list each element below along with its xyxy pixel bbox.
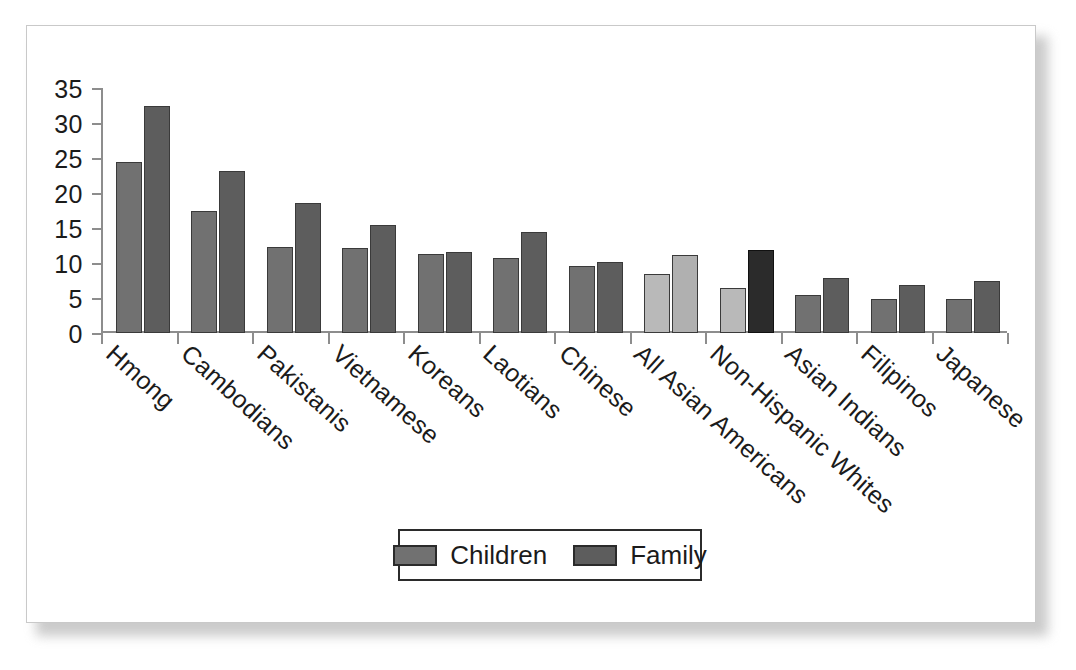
legend-swatch-family-icon <box>573 545 617 566</box>
y-axis-tick-label: 5 <box>69 285 83 314</box>
legend-label-children: Children <box>450 540 547 571</box>
y-axis-tick-label: 0 <box>69 320 83 349</box>
x-axis-label: Japanese <box>931 339 1032 434</box>
bar-family <box>899 285 925 333</box>
bar-family <box>370 225 396 333</box>
bar-family <box>748 250 774 333</box>
y-axis-tick: 10 <box>92 263 101 265</box>
bar-children <box>116 162 142 333</box>
x-axis-label: Chinese <box>553 339 642 423</box>
chart-page: 05101520253035 HmongCambodiansPakistanis… <box>0 0 1076 670</box>
bar-family <box>144 106 170 333</box>
plot-area: 05101520253035 <box>101 88 1007 333</box>
y-axis-tick: 35 <box>92 88 101 90</box>
bar-family <box>597 262 623 333</box>
y-axis-tick: 5 <box>92 298 101 300</box>
y-axis-tick-label: 35 <box>54 75 83 104</box>
bar-family <box>219 171 245 333</box>
x-axis-tick <box>1007 333 1009 344</box>
bar-family <box>823 278 849 333</box>
bar-children <box>795 295 821 333</box>
bar-children <box>418 254 444 333</box>
bar-children <box>569 266 595 333</box>
bar-children <box>644 274 670 334</box>
y-axis-tick: 30 <box>92 123 101 125</box>
y-axis-tick: 20 <box>92 193 101 195</box>
y-axis-tick: 0 <box>92 333 101 335</box>
bar-children <box>493 258 519 333</box>
figure-frame: 05101520253035 HmongCambodiansPakistanis… <box>26 25 1036 623</box>
bar-family <box>521 232 547 333</box>
y-axis-tick-label: 20 <box>54 180 83 209</box>
bar-children <box>267 247 293 333</box>
x-axis-label: Laotians <box>478 339 569 425</box>
y-axis-tick-label: 30 <box>54 110 83 139</box>
legend-swatch-children-icon <box>393 545 437 566</box>
bar-children <box>191 211 217 334</box>
y-axis-tick-label: 10 <box>54 250 83 279</box>
legend-label-family: Family <box>630 540 707 571</box>
y-axis-tick-label: 25 <box>54 145 83 174</box>
bar-family <box>672 255 698 333</box>
y-axis-tick: 25 <box>92 158 101 160</box>
chart-legend: Children Family <box>398 529 702 581</box>
bar-children <box>720 288 746 334</box>
bar-family <box>295 203 321 333</box>
y-axis-tick-label: 15 <box>54 215 83 244</box>
bar-family <box>974 281 1000 333</box>
y-axis-line <box>101 88 103 333</box>
y-axis-tick: 15 <box>92 228 101 230</box>
x-axis-label: Hmong <box>100 339 180 415</box>
bar-children <box>946 299 972 333</box>
legend-item-family: Family <box>573 540 707 571</box>
legend-item-children: Children <box>393 540 547 571</box>
x-axis-labels: HmongCambodiansPakistanisVietnameseKorea… <box>101 339 1007 499</box>
bar-children <box>871 299 897 333</box>
bar-family <box>446 252 472 333</box>
bar-children <box>342 248 368 333</box>
